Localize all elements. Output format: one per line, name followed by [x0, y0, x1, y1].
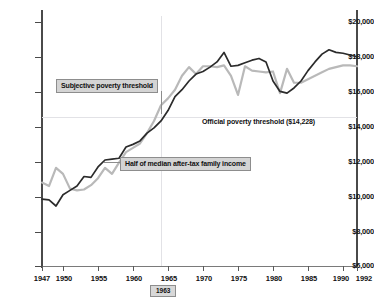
series-line-half-median-after-tax-income [42, 50, 357, 206]
annotation-official-poverty-threshold: Official poverty threshold ($14,228) [202, 118, 315, 126]
annotation-subjective-poverty-threshold: Subjective poverty threshold [56, 79, 158, 93]
x-axis-marker-1963: 1963 [150, 285, 176, 297]
leader-line-subjective [161, 91, 162, 114]
annotation-half-median-after-tax-income: Half of median after-tax family income [120, 157, 251, 171]
series-plot-area [0, 0, 374, 303]
chart-container: $20,000 $18,000 $16,000 $14,000 $12,000 … [0, 0, 374, 303]
leader-line-median [104, 162, 121, 163]
